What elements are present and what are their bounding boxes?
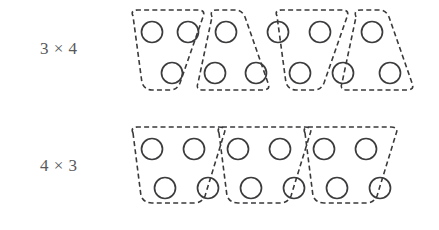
circle xyxy=(184,139,205,160)
grouping-diagram-svg xyxy=(0,0,439,230)
group-outline-row2-1 xyxy=(132,127,225,203)
group-outline-row1-2 xyxy=(197,10,269,90)
circle xyxy=(246,63,267,84)
circle xyxy=(241,178,262,199)
circle xyxy=(290,63,311,84)
circle xyxy=(142,22,163,43)
circle xyxy=(310,22,331,43)
circle xyxy=(216,22,237,43)
circle xyxy=(268,22,289,43)
row-label-3x4: 3 × 4 xyxy=(40,39,78,59)
row-label-4x3: 4 × 3 xyxy=(40,156,78,176)
circle xyxy=(380,63,401,84)
group-outline-row2-3 xyxy=(304,127,397,203)
circle xyxy=(142,139,163,160)
circle xyxy=(178,22,199,43)
circle xyxy=(327,178,348,199)
row-2-circles xyxy=(142,139,391,199)
row-1-circles xyxy=(142,22,401,84)
multiplication-grouping-figure: 3 × 4 4 × 3 xyxy=(0,0,439,230)
circle xyxy=(228,139,249,160)
circle xyxy=(155,178,176,199)
circle xyxy=(270,139,291,160)
circle xyxy=(314,139,335,160)
group-outline-row1-3 xyxy=(276,10,348,90)
circle xyxy=(356,139,377,160)
circle xyxy=(362,22,383,43)
row-2-groups xyxy=(132,127,397,203)
group-outline-row2-2 xyxy=(218,127,311,203)
circle xyxy=(205,63,226,84)
circle xyxy=(162,63,183,84)
